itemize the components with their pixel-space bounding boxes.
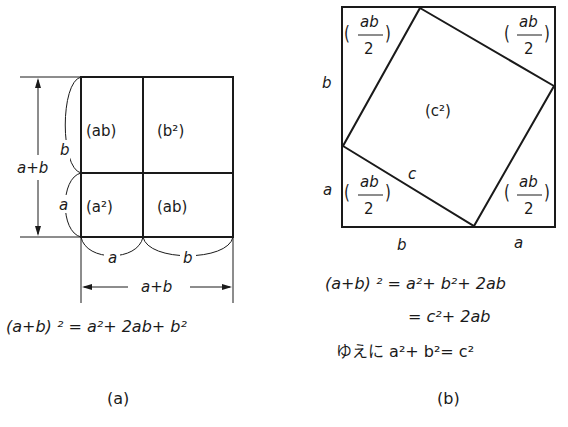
- svg-text:(: (: [504, 22, 510, 44]
- svg-text:2: 2: [524, 200, 534, 218]
- caption-a: (a): [107, 389, 129, 408]
- hypotenuse-c-label: c: [408, 165, 417, 183]
- caption-b: (b): [437, 389, 460, 408]
- fraction-top-left: ( ab 2 ): [344, 13, 391, 58]
- svg-text:(: (: [344, 22, 350, 44]
- label-a-bottom-a: a: [108, 249, 117, 267]
- svg-text:ab: ab: [519, 173, 538, 191]
- equation-a: (a+b) ² = a²+ 2ab+ b²: [6, 317, 187, 336]
- svg-text:): ): [385, 181, 391, 203]
- fraction-bottom-left: ( ab 2 ): [344, 173, 391, 218]
- cell-a-squared: (a²): [86, 198, 113, 216]
- label-b-bottom-b: b: [397, 236, 407, 254]
- svg-text:): ): [544, 181, 550, 203]
- svg-text:): ): [385, 22, 391, 44]
- fraction-top-right: ( ab 2 ): [504, 13, 550, 58]
- pythagorean-diagram: b a a+b a b a+b (ab) (b²) (a²) (ab) ( ab…: [0, 0, 568, 427]
- cell-ab-top: (ab): [86, 122, 116, 140]
- equation-b-line3: ゆえに a²+ b²= c²: [336, 338, 474, 362]
- equation-b-line2: = c²+ 2ab: [408, 307, 490, 326]
- svg-text:ab: ab: [519, 13, 538, 31]
- svg-text:2: 2: [364, 40, 374, 58]
- figure-a-square: [20, 77, 233, 303]
- svg-text:): ): [544, 22, 550, 44]
- svg-text:2: 2: [524, 40, 534, 58]
- label-a-bottom-b: b: [183, 249, 193, 267]
- center-c-squared: (c²): [425, 102, 451, 120]
- fraction-bottom-right: ( ab 2 ): [504, 173, 550, 218]
- equation-b-line1: (a+b) ² = a²+ b²+ 2ab: [325, 274, 506, 293]
- label-b-left-a: a: [323, 181, 332, 199]
- label-a-left-total: a+b: [17, 159, 48, 177]
- svg-text:ab: ab: [360, 13, 379, 31]
- label-a-bottom-total: a+b: [141, 278, 172, 296]
- label-b-left-b: b: [322, 74, 332, 92]
- svg-text:(: (: [504, 181, 510, 203]
- svg-text:ab: ab: [360, 173, 379, 191]
- svg-text:(: (: [344, 181, 350, 203]
- cell-b-squared: (b²): [157, 122, 184, 140]
- cell-ab-bottom: (ab): [157, 198, 187, 216]
- svg-text:2: 2: [364, 200, 374, 218]
- label-a-left-a: a: [59, 196, 68, 214]
- label-b-bottom-a: a: [514, 234, 523, 252]
- label-a-left-b: b: [60, 141, 70, 159]
